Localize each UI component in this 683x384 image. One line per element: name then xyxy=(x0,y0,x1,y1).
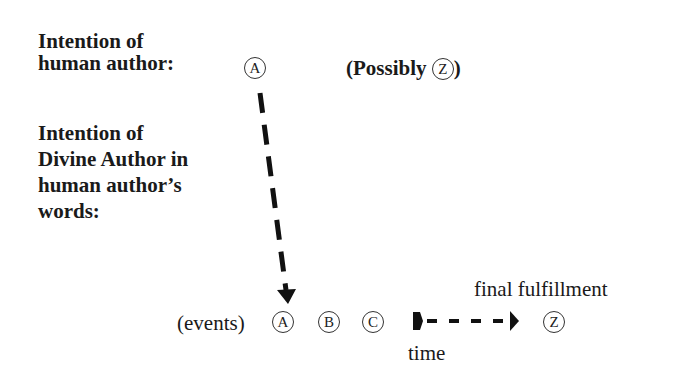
arrow-tail-icon xyxy=(413,312,423,330)
final-fulfillment-label: final fulfillment xyxy=(474,278,608,300)
event-marker-b: B xyxy=(318,311,340,333)
dashed-down-arrow-line xyxy=(260,93,286,290)
time-label: time xyxy=(408,342,445,364)
down-arrowhead-icon xyxy=(277,289,296,304)
connectors xyxy=(0,0,683,384)
event-marker-c: C xyxy=(362,311,384,333)
events-label: (events) xyxy=(177,312,245,334)
final-marker-z: Z xyxy=(543,311,565,333)
event-marker-a: A xyxy=(272,311,294,333)
right-arrowhead-icon xyxy=(510,311,519,331)
